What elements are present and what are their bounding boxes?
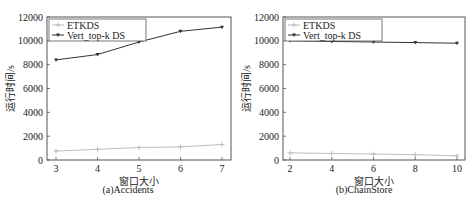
caption-chainstore: (b)ChainStore (254, 184, 473, 195)
plus-marker-icon (455, 153, 460, 158)
x-tick-label: 4 (329, 163, 334, 174)
legend-label: Vert_top-k DS (303, 30, 361, 41)
plus-marker-icon (137, 145, 142, 150)
x-tick-label: 10 (452, 163, 462, 174)
y-axis-label: 运行时间/s (4, 65, 16, 112)
x-tick-label: 6 (371, 163, 376, 174)
y-tick-label: 10000 (254, 35, 279, 46)
y-tick-label: 8000 (23, 59, 43, 70)
plus-marker-icon (220, 142, 225, 147)
y-tick-label: 0 (38, 155, 43, 166)
plus-marker-icon (95, 147, 100, 152)
y-tick-label: 4000 (23, 107, 43, 118)
x-tick-label: 7 (220, 163, 225, 174)
y-tick-label: 0 (274, 155, 279, 166)
x-tick-label: 5 (137, 163, 142, 174)
legend-label: Vert_top-k DS (67, 30, 125, 41)
y-tick-label: 2000 (259, 131, 279, 142)
y-tick-label: 12000 (254, 12, 279, 23)
plus-marker-icon (329, 151, 334, 156)
plus-marker-icon (178, 144, 183, 149)
plus-marker-icon (288, 150, 293, 155)
caption-accidents: (a)Accidents (18, 184, 238, 195)
y-tick-label: 4000 (259, 107, 279, 118)
chainstore-plot: 020004000600080001000012000246810窗口大小运行时… (236, 0, 473, 209)
y-tick-label: 8000 (259, 59, 279, 70)
chart-accidents: 02000400060008000100001200034567窗口大小运行时间… (0, 0, 236, 209)
y-tick-label: 12000 (18, 12, 43, 23)
y-tick-label: 10000 (18, 35, 43, 46)
plus-marker-icon (413, 152, 418, 157)
y-tick-label: 6000 (23, 83, 43, 94)
x-tick-label: 3 (54, 163, 59, 174)
plus-marker-icon (371, 152, 376, 157)
y-tick-label: 6000 (259, 83, 279, 94)
x-tick-label: 4 (95, 163, 100, 174)
legend: ETKDSVert_top-k DS (285, 19, 382, 41)
x-tick-label: 8 (413, 163, 418, 174)
chart-chainstore: 020004000600080001000012000246810窗口大小运行时… (236, 0, 472, 209)
x-tick-label: 2 (288, 163, 293, 174)
legend: ETKDSVert_top-k DS (49, 19, 146, 41)
plus-marker-icon (54, 149, 59, 154)
x-tick-label: 6 (178, 163, 183, 174)
y-tick-label: 2000 (23, 131, 43, 142)
y-axis-label: 运行时间/s (240, 65, 252, 112)
accidents-plot: 02000400060008000100001200034567窗口大小运行时间… (0, 0, 236, 209)
